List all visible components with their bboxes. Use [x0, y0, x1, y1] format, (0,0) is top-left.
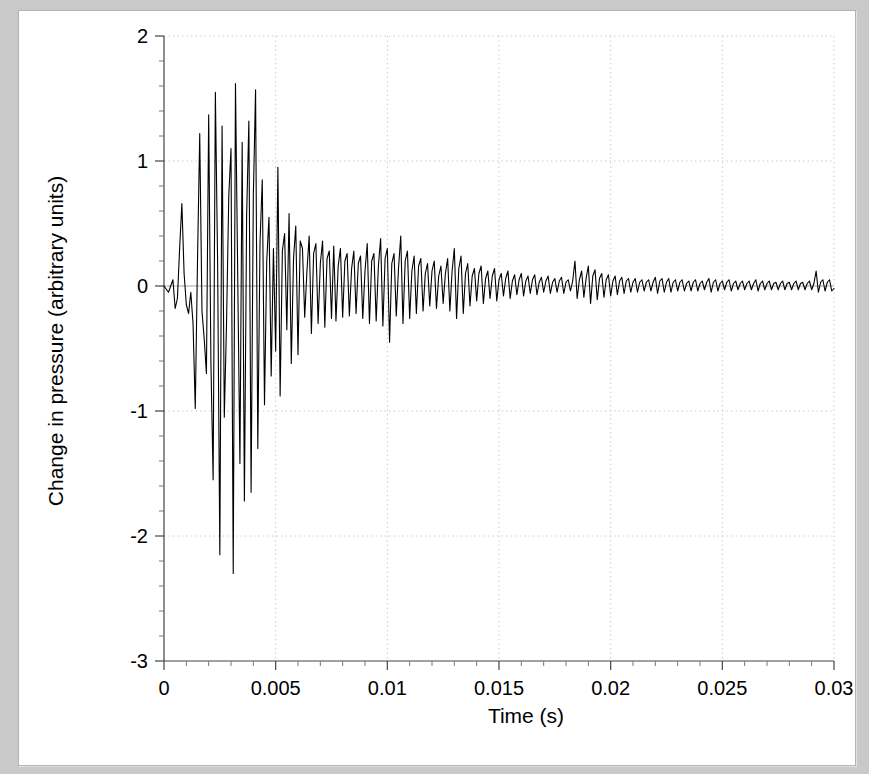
- y-tick-label: -3: [130, 650, 148, 672]
- waveform-chart: 00.0050.010.0150.020.0250.03 210-1-2-3 T…: [19, 11, 857, 767]
- y-tick-label: -1: [130, 400, 148, 422]
- x-tick-label: 0.025: [697, 677, 747, 699]
- grid-layer: [164, 36, 834, 661]
- x-axis-title: Time (s): [488, 704, 564, 727]
- x-tick-label: 0: [158, 677, 169, 699]
- figure-card: 00.0050.010.0150.020.0250.03 210-1-2-3 T…: [18, 10, 856, 766]
- y-tick-label: 2: [137, 25, 148, 47]
- x-tick-label: 0.02: [591, 677, 630, 699]
- x-tick-label: 0.015: [474, 677, 524, 699]
- y-axis-title: Change in pressure (arbitrary units): [44, 176, 67, 506]
- y-tick-label: -2: [130, 525, 148, 547]
- y-tick-label: 0: [137, 275, 148, 297]
- x-tick-label: 0.01: [368, 677, 407, 699]
- y-tick-label: 1: [137, 150, 148, 172]
- x-tick-label: 0.005: [251, 677, 301, 699]
- y-tick-labels: 210-1-2-3: [130, 25, 148, 672]
- x-tick-label: 0.03: [815, 677, 854, 699]
- x-tick-labels: 00.0050.010.0150.020.0250.03: [158, 677, 853, 699]
- page-root: 00.0050.010.0150.020.0250.03 210-1-2-3 T…: [0, 0, 869, 774]
